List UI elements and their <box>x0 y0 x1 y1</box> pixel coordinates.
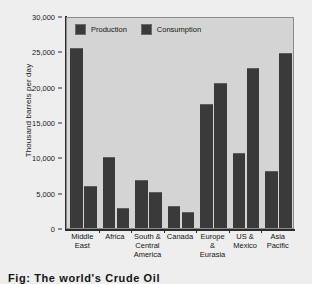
y-tick-label: 15,000 <box>32 119 55 128</box>
x-category-label: US &Mexico <box>229 232 262 250</box>
y-tick-label: 20,000 <box>32 83 55 92</box>
x-category-label: Africa <box>99 232 132 241</box>
bar-group <box>230 18 263 228</box>
bar-consumption <box>279 53 292 228</box>
x-category-label-line: US & <box>229 232 262 241</box>
bar-production <box>70 48 83 228</box>
x-category-label-line: & <box>196 241 229 250</box>
y-tick-mark <box>58 17 62 18</box>
bar-group <box>67 18 100 228</box>
x-category-label-line: South & <box>131 232 164 241</box>
y-tick-label: 25,000 <box>32 48 55 57</box>
bar-consumption <box>247 68 260 228</box>
bar-consumption <box>214 83 227 228</box>
plot-area: Production Consumption <box>66 17 294 229</box>
legend-swatch-production <box>75 24 86 35</box>
legend-item-production: Production <box>75 24 127 35</box>
y-axis-tick-labels: 05,00010,00015,00020,00025,00030,000 <box>0 0 62 284</box>
x-category-label-line: Central <box>131 241 164 250</box>
bar-production <box>168 206 181 228</box>
bar-group <box>197 18 230 228</box>
x-category-label-line: East <box>66 241 99 250</box>
y-tick-mark <box>58 87 62 88</box>
bar-chart-figure: Thousand barrels per day 05,00010,00015,… <box>0 0 312 284</box>
bar-production <box>135 180 148 228</box>
legend-swatch-consumption <box>141 24 152 35</box>
x-axis-category-labels: MiddleEastAfricaSouth &CentralAmericaCan… <box>66 232 294 274</box>
x-category-label-line: America <box>131 250 164 259</box>
bar-consumption <box>182 212 195 228</box>
y-tick-mark <box>58 123 62 124</box>
bar-production <box>265 171 278 228</box>
x-category-label-line: Middle <box>66 232 99 241</box>
x-category-label: Canada <box>164 232 197 241</box>
bar-group <box>262 18 295 228</box>
x-category-label: MiddleEast <box>66 232 99 250</box>
x-category-label-line: Eurasia <box>196 250 229 259</box>
y-tick-mark <box>58 158 62 159</box>
bar-group <box>132 18 165 228</box>
x-category-label-line: Pacific <box>261 241 294 250</box>
x-category-label-line: Canada <box>164 232 197 241</box>
bar-group <box>100 18 133 228</box>
y-tick-mark <box>58 193 62 194</box>
x-category-label: Europe&Eurasia <box>196 232 229 260</box>
figure-caption: Fig: The world's Crude Oil <box>8 272 160 284</box>
bar-production <box>233 153 246 228</box>
x-category-label: South &CentralAmerica <box>131 232 164 260</box>
x-category-label-line: Asia <box>261 232 294 241</box>
x-category-label-line: Africa <box>99 232 132 241</box>
legend-label-consumption: Consumption <box>157 25 201 34</box>
bar-production <box>103 157 116 228</box>
x-category-label-line: Mexico <box>229 241 262 250</box>
x-category-label-line: Europe <box>196 232 229 241</box>
bar-series-container <box>67 18 293 228</box>
chart-legend: Production Consumption <box>75 24 201 35</box>
y-tick-label: 5,000 <box>36 189 55 198</box>
legend-label-production: Production <box>91 25 127 34</box>
y-tick-label: 30,000 <box>32 13 55 22</box>
bar-consumption <box>117 208 130 228</box>
bar-consumption <box>149 192 162 228</box>
y-tick-mark <box>58 52 62 53</box>
y-tick-label: 10,000 <box>32 154 55 163</box>
bar-consumption <box>84 186 97 228</box>
y-tick-label: 0 <box>51 225 55 234</box>
y-tick-mark <box>58 229 62 230</box>
bar-group <box>165 18 198 228</box>
legend-item-consumption: Consumption <box>141 24 201 35</box>
x-category-label: AsiaPacific <box>261 232 294 250</box>
bar-production <box>200 104 213 228</box>
